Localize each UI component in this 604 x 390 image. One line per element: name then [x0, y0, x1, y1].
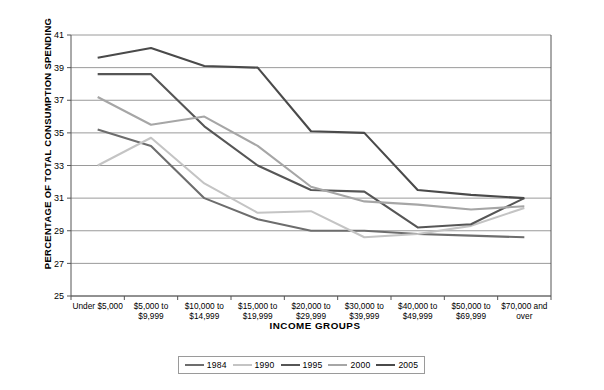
legend-label: 2005	[398, 360, 418, 370]
legend-label: 1990	[255, 360, 275, 370]
legend-swatch-icon	[376, 364, 395, 366]
chart-legend: 19841990199520002005	[178, 356, 425, 374]
x-tick-label: $70,000 and	[501, 301, 548, 311]
y-tick-label: 39	[54, 63, 64, 73]
y-tick-label: 27	[54, 259, 64, 269]
legend-label: 2000	[350, 360, 370, 370]
legend-swatch-icon	[281, 364, 300, 366]
legend-item-1995[interactable]: 1995	[278, 360, 326, 370]
legend-item-1984[interactable]: 1984	[182, 360, 230, 370]
legend-label: 1984	[207, 360, 227, 370]
x-tick-label: $30,000 to	[345, 301, 385, 311]
x-tick-label: $15,000 to	[238, 301, 278, 311]
y-tick-label: 41	[54, 30, 64, 40]
x-tick-label: $40,000 to	[398, 301, 438, 311]
x-axis-title: INCOME GROUPS	[70, 320, 560, 331]
y-tick-label: 37	[54, 95, 64, 105]
legend-item-1990[interactable]: 1990	[230, 360, 278, 370]
y-tick-label: 25	[54, 291, 64, 301]
legend-item-2000[interactable]: 2000	[325, 360, 373, 370]
line-chart: PERCENTAGE OF TOTAL CONSUMPTION SPENDING…	[0, 0, 604, 390]
y-tick-label: 29	[54, 226, 64, 236]
legend-item-2005[interactable]: 2005	[373, 360, 421, 370]
y-axis-ticks: 252729313335373941	[54, 30, 71, 301]
y-tick-label: 35	[54, 128, 64, 138]
legend-swatch-icon	[328, 364, 347, 366]
x-tick-label: $5,000 to	[134, 301, 169, 311]
x-tick-label: $20,000 to	[291, 301, 331, 311]
y-tick-label: 33	[54, 161, 64, 171]
data-series	[98, 48, 525, 237]
x-axis-ticks	[71, 296, 551, 300]
x-tick-label: $50,000 to	[451, 301, 491, 311]
y-tick-label: 31	[54, 193, 64, 203]
x-tick-label: Under $5,000	[73, 301, 124, 311]
x-axis-tick-labels: Under $5,000$5,000 to$9,999$10,000 to$14…	[73, 301, 548, 321]
series-line-2000	[98, 97, 525, 210]
plot-area: 252729313335373941 Under $5,000$5,000 to…	[0, 0, 604, 390]
x-tick-label: $10,000 to	[185, 301, 225, 311]
series-line-1995	[98, 74, 525, 227]
legend-label: 1995	[303, 360, 323, 370]
legend-swatch-icon	[233, 364, 252, 366]
legend-swatch-icon	[185, 364, 204, 366]
